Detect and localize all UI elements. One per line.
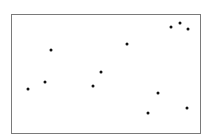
data-point xyxy=(26,88,29,91)
data-point xyxy=(91,85,94,88)
data-point xyxy=(147,112,150,115)
scatter-plot-area xyxy=(11,14,201,134)
data-point xyxy=(157,92,160,95)
data-point xyxy=(186,107,189,110)
data-point xyxy=(170,25,173,28)
data-point xyxy=(179,21,182,24)
data-point xyxy=(99,70,102,73)
data-point xyxy=(187,27,190,30)
data-point xyxy=(43,81,46,84)
data-point xyxy=(126,42,129,45)
data-point xyxy=(49,48,52,51)
